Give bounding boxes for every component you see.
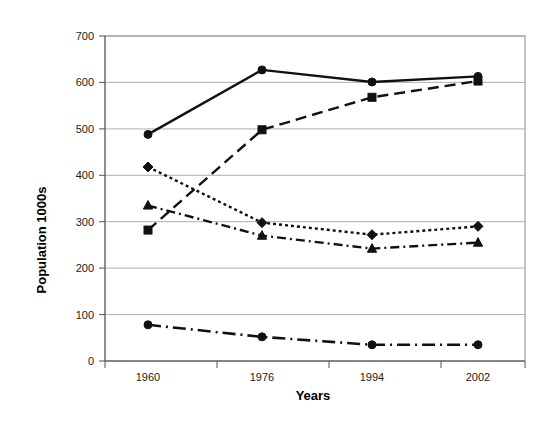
square-marker [368, 93, 376, 101]
chart-background [0, 0, 551, 428]
y-axis-title: Population 1000s [34, 187, 49, 294]
x-axis-title: Years [296, 388, 331, 403]
y-tick-label: 200 [76, 262, 94, 274]
circle-marker [368, 341, 376, 349]
circle-marker [474, 341, 482, 349]
x-tick-label-2002: 2002 [466, 371, 490, 383]
circle-marker [368, 78, 376, 86]
y-tick-label: 400 [76, 169, 94, 181]
square-marker [144, 226, 152, 234]
square-marker [258, 126, 266, 134]
y-tick-label: 700 [76, 30, 94, 42]
chart-page: 700 600 500 400 300 200 100 0 1960 1976 … [0, 0, 551, 428]
y-tick-label: 0 [88, 355, 94, 367]
y-tick-label: 500 [76, 123, 94, 135]
circle-marker [144, 321, 152, 329]
x-tick-label-1994: 1994 [360, 371, 384, 383]
x-tick-label-1960: 1960 [136, 371, 160, 383]
x-tick-label-1976: 1976 [250, 371, 274, 383]
circle-marker [144, 130, 152, 138]
y-tick-label: 300 [76, 216, 94, 228]
square-marker [474, 77, 482, 85]
y-tick-label: 600 [76, 76, 94, 88]
y-tick-label: 100 [76, 309, 94, 321]
population-line-chart: 700 600 500 400 300 200 100 0 1960 1976 … [0, 0, 551, 428]
circle-marker [258, 333, 266, 341]
circle-marker [258, 66, 266, 74]
